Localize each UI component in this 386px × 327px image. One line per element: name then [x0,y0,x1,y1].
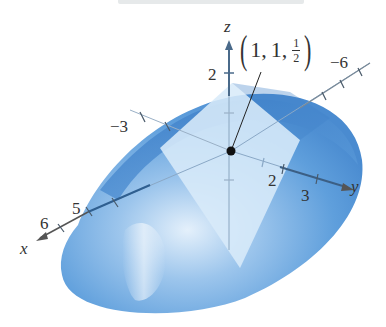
frac-numerator: 1 [293,37,299,49]
point-y: 1 [271,37,282,63]
point-label: ( 1 , 1 , 1 2 ) [237,30,315,70]
y-tick-3: 3 [301,187,310,204]
paraboloid-figure [0,0,386,327]
x-axis-label: x [20,240,28,257]
point-x: 1 [250,37,261,63]
x-tick-6: 6 [40,215,49,232]
sep-1: , [261,37,267,63]
y-tick-neg6: −6 [330,54,348,71]
close-paren: ) [304,30,311,70]
z-arrow-icon [225,40,233,50]
tangent-point [227,147,236,156]
y-axis-label: y [351,178,359,195]
z-axis-label: z [224,18,231,35]
sep-2: , [282,37,288,63]
y-tick-2: 2 [268,172,277,189]
frac-denominator: 2 [293,52,299,64]
x-tick-neg3: −3 [110,118,128,135]
x-arrow-icon [36,232,48,241]
z-tick-2: 2 [208,66,217,83]
open-paren: ( [240,30,247,70]
x-tick-5: 5 [72,200,81,217]
point-z-fraction: 1 2 [292,37,300,64]
